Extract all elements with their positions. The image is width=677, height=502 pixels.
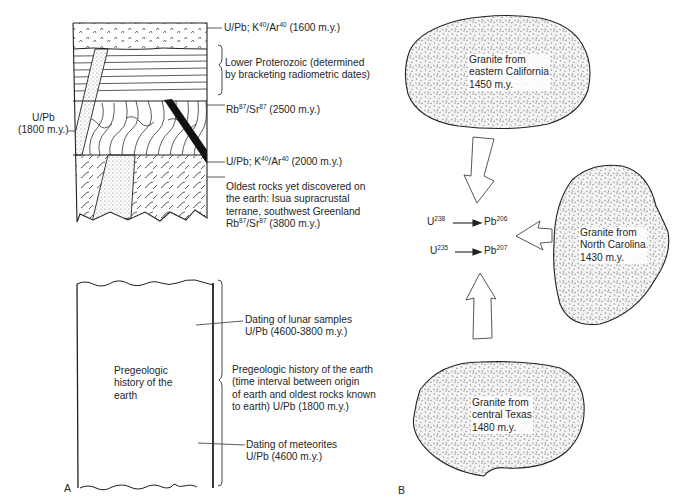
panel-letter-a: A	[64, 482, 71, 494]
label-intrusion-date: U/Pb (1800 m.y.)	[18, 112, 69, 137]
label-oldest-rocks: Oldest rocks yet discovered on the earth…	[226, 181, 365, 231]
label-pregeologic-inner: Pregeologic history of the earth	[114, 365, 172, 402]
label-dike-date: U/Pb; K40/Ar40 (2000 m.y.)	[226, 156, 342, 168]
panel-letter-b: B	[398, 484, 405, 496]
stratigraphic-column	[68, 23, 225, 225]
label-lunar-samples: Dating of lunar samples U/Pb (4600-3800 …	[245, 314, 352, 339]
decay-pb207: Pb207	[484, 245, 507, 257]
label-granite-california: Granite from eastern California 1450 m.y…	[468, 54, 550, 91]
brace-pregeologic	[218, 280, 222, 486]
label-granite-texas: Granite from central Texas 1480 m.y.	[471, 397, 533, 434]
label-lower-proterozoic: Lower Proterozoic (determined by bracket…	[225, 57, 370, 82]
arrow-up-icon	[466, 273, 496, 339]
label-granite-north-carolina: Granite from North Carolina 1430 m.y.	[579, 227, 647, 264]
brace-lower-proterozoic	[218, 45, 222, 95]
decay-pb206: Pb206	[484, 216, 507, 228]
arrow-left-icon	[516, 221, 552, 250]
arrow-down-icon	[464, 137, 494, 203]
decay-u238: U238	[427, 216, 445, 228]
decay-arrows	[453, 220, 481, 255]
decay-u235: U235	[430, 245, 448, 257]
label-pregeologic-brace: Pregeologic history of the earth (time i…	[232, 364, 376, 414]
label-volcanics-date: U/Pb; K40/Ar40 (1600 m.y.)	[224, 22, 340, 34]
label-folded-rocks-date: Rb87/Sr87 (2500 m.y.)	[226, 104, 320, 116]
label-meteorites: Dating of meteorites U/Pb (4600 m.y.)	[246, 439, 337, 464]
